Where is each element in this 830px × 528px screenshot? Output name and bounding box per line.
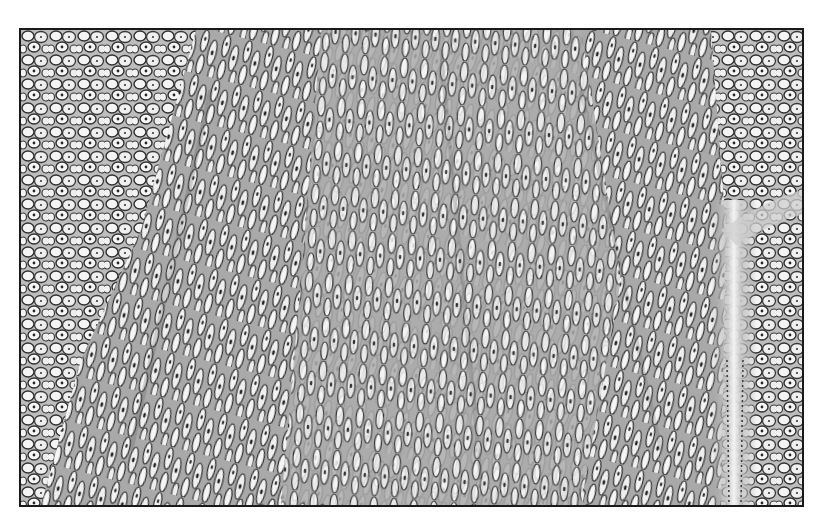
micrograph-frame — [19, 28, 804, 507]
vascular-stromal-streak — [711, 200, 757, 505]
histology-micrograph — [21, 30, 802, 505]
